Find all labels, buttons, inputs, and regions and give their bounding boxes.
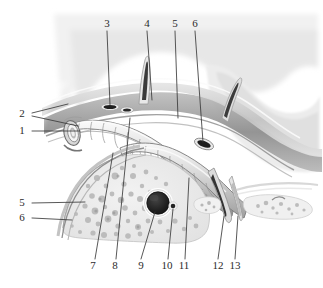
label-5-top: 5 xyxy=(170,18,180,29)
right-vessel-lumen xyxy=(193,136,215,152)
label-4: 4 xyxy=(142,18,152,29)
right-lobules xyxy=(194,195,312,220)
anatomy-figure: 2 1 3 4 5 6 5 6 7 8 9 10 11 12 13 xyxy=(0,0,323,288)
lower-fascia xyxy=(236,183,318,194)
anatomy-illustration xyxy=(0,0,323,288)
label-2: 2 xyxy=(17,108,27,119)
leader-line-13 xyxy=(235,216,238,259)
label-9: 9 xyxy=(136,260,146,271)
label-6-left: 6 xyxy=(17,212,27,223)
label-11: 11 xyxy=(178,260,190,271)
label-5-left: 5 xyxy=(17,197,27,208)
label-7: 7 xyxy=(88,260,98,271)
label-10: 10 xyxy=(160,260,174,271)
label-12: 12 xyxy=(211,260,225,271)
central-lumen xyxy=(143,188,173,218)
label-8: 8 xyxy=(110,260,120,271)
label-1: 1 xyxy=(17,125,27,136)
label-13: 13 xyxy=(228,260,242,271)
leader-line-12 xyxy=(218,216,224,259)
label-3: 3 xyxy=(102,18,112,29)
label-6-top: 6 xyxy=(190,18,200,29)
